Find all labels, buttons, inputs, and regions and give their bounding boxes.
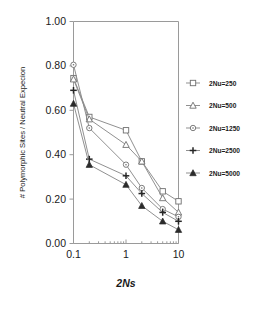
legend-label-0: 2Nu=250 <box>209 80 237 87</box>
x-tick-label-0: 0.1 <box>66 248 81 260</box>
y-axis-title: # Polymorphic Sites / Neutral Expecion <box>18 67 27 198</box>
legend-label-1: 2Nu=500 <box>209 102 237 109</box>
legend-label-2: 2Nu=1250 <box>209 125 240 132</box>
chart-svg: 0.00 0.20 0.40 0.60 0.80 1.00 0.1 1 10 2… <box>0 0 255 313</box>
chart-figure: 0.00 0.20 0.40 0.60 0.80 1.00 0.1 1 10 2… <box>0 0 255 313</box>
legend-item-2[interactable]: 2Nu=1250 <box>186 125 240 132</box>
x-tick-label-1: 1 <box>123 248 129 260</box>
x-tick-label-2: 10 <box>173 248 185 260</box>
y-tick-label-5: 1.00 <box>46 15 67 27</box>
y-tick-label-2: 0.40 <box>46 148 67 160</box>
legend-label-3: 2Nu=2500 <box>209 147 240 154</box>
y-tick-label-1: 0.20 <box>46 193 67 205</box>
legend-label-4: 2Nu=5000 <box>209 170 240 177</box>
chart-background <box>0 0 255 313</box>
y-tick-label-4: 0.80 <box>46 59 67 71</box>
x-axis-title: 2Ns <box>115 277 135 289</box>
y-tick-label-0: 0.00 <box>46 237 67 249</box>
y-tick-label-3: 0.60 <box>46 104 67 116</box>
legend-item-0[interactable]: 2Nu=250 <box>186 80 237 87</box>
legend-item-1[interactable]: 2Nu=500 <box>186 102 237 109</box>
